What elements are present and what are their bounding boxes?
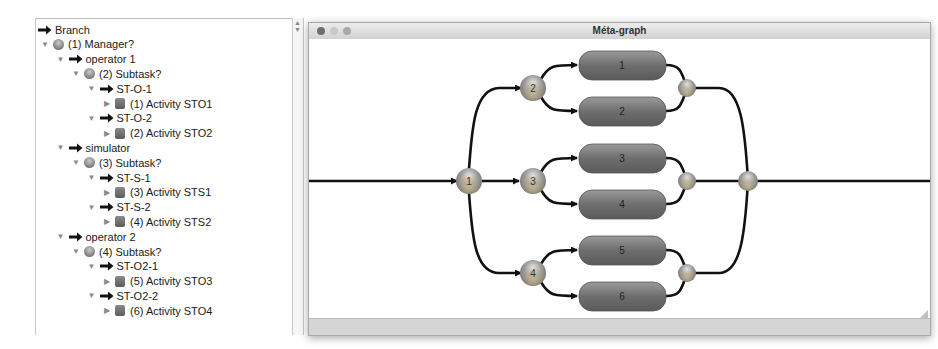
tree-item-15[interactable]: ▼ (4) Subtask? [71, 244, 161, 259]
tree-item-2[interactable]: ▼ operator 1 [56, 52, 136, 67]
tree-item-label: (3) Subtask? [99, 157, 161, 169]
tree-item-label: ST-O-1 [117, 83, 152, 95]
tree-item-0[interactable]: Branch [38, 22, 90, 37]
activity-node-3[interactable]: 3 [579, 144, 666, 173]
decision-node-1[interactable]: 1 [456, 168, 482, 194]
resize-grip-icon[interactable] [920, 310, 928, 318]
activity-node-2[interactable]: 2 [579, 97, 666, 126]
disclosure-triangle-icon[interactable]: ▼ [87, 173, 97, 182]
tree-item-label: simulator [86, 142, 131, 154]
tree-item-label: (4) Subtask? [99, 246, 161, 258]
disclosure-triangle-icon[interactable]: ▼ [87, 114, 97, 123]
box-icon [115, 98, 125, 109]
tree-item-5[interactable]: ▶ (1) Activity STO1 [102, 96, 212, 111]
ball-icon [84, 157, 95, 168]
meta-graph-diagram: 1 2 3 4 1 [309, 39, 930, 321]
scroll-down-icon[interactable]: ▼ [294, 26, 301, 33]
disclosure-triangle-icon[interactable]: ▼ [56, 55, 66, 64]
activity-node-6[interactable]: 6 [579, 282, 666, 311]
disclosure-triangle-icon[interactable]: ▶ [102, 306, 112, 315]
window-title: Méta-graph [309, 25, 930, 36]
tree-item-label: ST-O-2 [117, 112, 152, 124]
tree-item-label: ST-S-2 [117, 201, 151, 213]
disclosure-triangle-icon[interactable]: ▶ [102, 188, 112, 197]
ball-icon [84, 68, 95, 79]
merge-node-top[interactable] [678, 79, 696, 97]
disclosure-triangle-icon[interactable]: ▼ [87, 291, 97, 300]
tree-item-label: operator 2 [86, 231, 136, 243]
box-icon [115, 128, 125, 139]
disclosure-triangle-icon[interactable]: ▼ [56, 232, 66, 241]
window-statusbar [309, 318, 930, 335]
tree-item-label: (6) Activity STO4 [130, 305, 212, 317]
scroll-up-icon[interactable]: ▲ [294, 19, 301, 26]
tree-panel: Branch ▼ (1) Manager? ▼ operator 1 ▼ (2)… [35, 18, 297, 335]
ball-icon [84, 246, 95, 257]
tree-item-6[interactable]: ▼ ST-O-2 [87, 111, 152, 126]
svg-text:4: 4 [619, 199, 625, 210]
tree-item-17[interactable]: ▶ (5) Activity STO3 [102, 274, 212, 289]
arrow-icon [69, 143, 83, 153]
tree-item-4[interactable]: ▼ ST-O-1 [87, 81, 152, 96]
disclosure-triangle-icon[interactable]: ▼ [87, 262, 97, 271]
disclosure-triangle-icon[interactable]: ▶ [102, 277, 112, 286]
merge-node-bottom[interactable] [678, 264, 696, 282]
activity-node-4[interactable]: 4 [579, 190, 666, 219]
tree-item-label: Branch [55, 24, 90, 36]
arrow-icon [100, 291, 114, 301]
disclosure-triangle-icon[interactable]: ▶ [102, 129, 112, 138]
tree-item-label: (2) Subtask? [99, 68, 161, 80]
meta-graph-window: Méta-graph [308, 22, 931, 336]
tree-item-1[interactable]: ▼ (1) Manager? [40, 37, 134, 52]
tree-item-label: (1) Activity STO1 [130, 98, 212, 110]
arrow-icon [100, 173, 114, 183]
tree-item-18[interactable]: ▼ ST-O2-2 [87, 288, 159, 303]
tree-scrollbar[interactable]: ▲ ▼ [292, 18, 304, 335]
window-titlebar[interactable]: Méta-graph [309, 23, 930, 40]
tree-item-label: ST-O2-1 [117, 260, 159, 272]
disclosure-triangle-icon[interactable]: ▼ [71, 158, 81, 167]
decision-node-3[interactable]: 3 [520, 168, 546, 194]
box-icon [115, 216, 125, 227]
decision-node-2[interactable]: 2 [520, 75, 546, 101]
tree-item-7[interactable]: ▶ (2) Activity STO2 [102, 126, 212, 141]
tree-item-13[interactable]: ▶ (4) Activity STS2 [102, 214, 211, 229]
merge-node-middle[interactable] [678, 172, 696, 190]
disclosure-triangle-icon[interactable]: ▼ [87, 203, 97, 212]
box-icon [115, 276, 125, 287]
svg-text:3: 3 [619, 153, 625, 164]
tree-item-16[interactable]: ▼ ST-O2-1 [87, 259, 159, 274]
tree-item-3[interactable]: ▼ (2) Subtask? [71, 66, 161, 81]
decision-node-4[interactable]: 4 [520, 260, 546, 286]
tree-item-8[interactable]: ▼ simulator [56, 140, 131, 155]
activity-node-1[interactable]: 1 [579, 51, 666, 80]
tree-item-19[interactable]: ▶ (6) Activity STO4 [102, 303, 212, 318]
svg-text:6: 6 [619, 291, 625, 302]
svg-text:1: 1 [466, 176, 472, 187]
merge-node-final[interactable] [738, 171, 758, 191]
disclosure-triangle-icon[interactable]: ▶ [102, 99, 112, 108]
arrow-icon [69, 232, 83, 242]
arrow-icon [69, 54, 83, 64]
disclosure-triangle-icon[interactable]: ▼ [87, 84, 97, 93]
tree-item-14[interactable]: ▼ operator 2 [56, 229, 136, 244]
tree-item-10[interactable]: ▼ ST-S-1 [87, 170, 151, 185]
tree-item-11[interactable]: ▶ (3) Activity STS1 [102, 185, 211, 200]
disclosure-triangle-icon[interactable]: ▼ [56, 143, 66, 152]
tree-item-label: operator 1 [86, 53, 136, 65]
disclosure-triangle-icon[interactable]: ▼ [71, 69, 81, 78]
arrow-icon [100, 113, 114, 123]
tree-item-label: ST-O2-2 [117, 290, 159, 302]
tree-item-label: (1) Manager? [68, 38, 134, 50]
box-icon [115, 187, 125, 198]
svg-text:1: 1 [619, 60, 625, 71]
disclosure-triangle-icon[interactable]: ▼ [40, 40, 50, 49]
arrow-icon [100, 84, 114, 94]
activity-node-5[interactable]: 5 [579, 236, 666, 265]
tree-item-12[interactable]: ▼ ST-S-2 [87, 200, 151, 215]
disclosure-triangle-icon[interactable]: ▶ [102, 217, 112, 226]
disclosure-triangle-icon[interactable]: ▼ [71, 247, 81, 256]
svg-text:3: 3 [530, 176, 536, 187]
tree-item-9[interactable]: ▼ (3) Subtask? [71, 155, 161, 170]
tree-item-label: ST-S-1 [117, 172, 151, 184]
